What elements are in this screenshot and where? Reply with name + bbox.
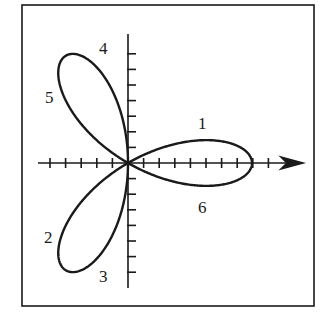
frame-border bbox=[22, 5, 314, 306]
segment-label-1: 1 bbox=[198, 115, 207, 132]
segment-label-6: 6 bbox=[198, 199, 207, 216]
segment-label-5: 5 bbox=[45, 89, 54, 106]
rose-curve-figure bbox=[0, 0, 324, 317]
axes bbox=[38, 34, 303, 288]
segment-label-3: 3 bbox=[99, 268, 108, 285]
segment-label-2: 2 bbox=[44, 229, 53, 246]
segment-label-4: 4 bbox=[99, 40, 108, 57]
